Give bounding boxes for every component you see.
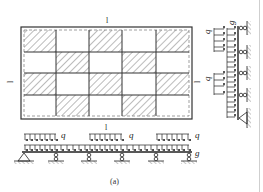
structural-diagram: l l l (0, 0, 263, 192)
supports (239, 21, 251, 128)
roller-support-icon (239, 88, 251, 102)
live-load-label: q (202, 29, 212, 34)
roller-support-icon (239, 45, 251, 59)
floor-plan: l l l (6, 16, 202, 119)
live-load-label: q (61, 130, 66, 140)
roller-support-icon (239, 66, 251, 80)
live-load-label: q (129, 130, 134, 140)
roller-support-icon (48, 153, 64, 164)
roller-support-icon (114, 153, 130, 164)
vertical-beam: q q g (202, 20, 251, 128)
dead-load-label: g (195, 148, 200, 158)
page-edge-divider (259, 0, 260, 192)
live-load-q (24, 134, 189, 140)
live-load-label: q (202, 76, 212, 81)
horizontal-beam: l q q q g (14, 123, 200, 164)
dead-load-g (24, 145, 189, 150)
roller-support-icon (81, 153, 97, 164)
dead-load-label: g (226, 20, 236, 25)
span-label-left: l (6, 80, 15, 83)
pin-support-icon (239, 108, 251, 128)
span-label-right: l (193, 80, 202, 83)
live-load-q (214, 28, 224, 95)
supports (14, 153, 197, 164)
dead-load-g (227, 28, 235, 118)
span-label-top: l (106, 16, 109, 25)
figure-caption: (a) (110, 177, 119, 186)
pin-support-icon (14, 153, 34, 164)
roller-support-icon (239, 21, 251, 35)
roller-support-icon (148, 153, 164, 164)
beam-span-label: l (105, 123, 108, 132)
live-load-label: q (195, 130, 200, 140)
